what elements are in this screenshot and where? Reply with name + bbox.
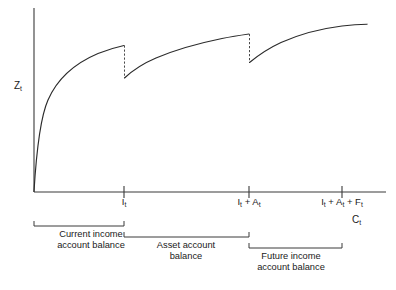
curve-segment-asset-account bbox=[125, 34, 250, 78]
bracket-label-line-2: account balance bbox=[221, 262, 361, 273]
curve-segment-current-income bbox=[34, 46, 124, 192]
x-tick-label-income-plus-assets-plus-future: It + At + Ft bbox=[321, 196, 363, 207]
y-axis-label: Zt bbox=[14, 80, 22, 92]
x-tick-label-income: It bbox=[122, 196, 127, 207]
bracket-label-line-1: Asset account bbox=[121, 240, 251, 251]
x-axis-label: Ct bbox=[352, 214, 361, 226]
bracket-current-income bbox=[34, 221, 124, 226]
bracket-future-income bbox=[249, 243, 342, 248]
bracket-label-line-1: Current income bbox=[31, 229, 151, 240]
y-axis-label-subscript: t bbox=[20, 85, 22, 92]
curve-segment-future-income bbox=[250, 24, 368, 62]
figure-container: Zt Ct It It + At It + At + Ft Current in… bbox=[0, 0, 396, 290]
x-axis-label-subscript: t bbox=[359, 219, 361, 226]
x-tick-label-income-plus-assets: It + At bbox=[237, 196, 260, 207]
bracket-label-line-1: Future income bbox=[221, 251, 361, 262]
bracket-label-future-income: Future income account balance bbox=[221, 251, 361, 273]
